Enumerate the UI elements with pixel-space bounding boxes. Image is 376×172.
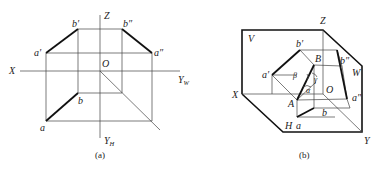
figure-a: Z X O YW YH a′ b′ a″ b″ a b (a) (8, 10, 190, 160)
label-yw: YW (178, 74, 190, 86)
segment-a-b (297, 108, 314, 117)
caption-b: (b) (299, 150, 310, 160)
segment-a-prime-b-prime (46, 29, 78, 53)
projection-diagram: Z X O YW YH a′ b′ a″ b″ a b (a) (0, 0, 376, 172)
label-y: Y (364, 135, 371, 146)
label-z: Z (104, 10, 110, 21)
label-z: Z (320, 15, 326, 26)
label-b-dprime: b″ (340, 55, 350, 66)
label-b-dprime: b″ (123, 18, 133, 29)
label-a-prime: a′ (34, 47, 42, 58)
label-gamma: γ (314, 75, 318, 84)
segment-b-dprime-a-dprime (122, 29, 152, 53)
label-o: O (326, 84, 333, 95)
label-a: a (40, 122, 45, 133)
label-x: X (231, 89, 239, 100)
label-a-dprime: a″ (352, 92, 362, 103)
label-yh: YH (104, 135, 115, 147)
label-v: V (248, 33, 256, 44)
label-b: b (322, 107, 327, 118)
label-o: O (102, 58, 109, 69)
label-b-prime: b′ (296, 38, 304, 49)
caption-a: (a) (95, 150, 105, 160)
figure-b: Z X Y O V H W A B a′ b′ a″ b″ a b α β γ … (231, 15, 371, 160)
label-a-prime: a′ (262, 69, 270, 80)
label-beta: β (292, 71, 297, 80)
label-b-prime: b′ (72, 18, 80, 29)
label-a-dprime: a″ (154, 47, 164, 58)
label-w: W (352, 67, 362, 78)
label-B: B (315, 53, 321, 64)
segment-a-b (46, 93, 78, 121)
label-x: X (8, 65, 16, 76)
label-h: H (284, 120, 293, 131)
label-a: a (296, 120, 301, 131)
label-b: b (78, 95, 83, 106)
label-A: A (287, 98, 295, 109)
